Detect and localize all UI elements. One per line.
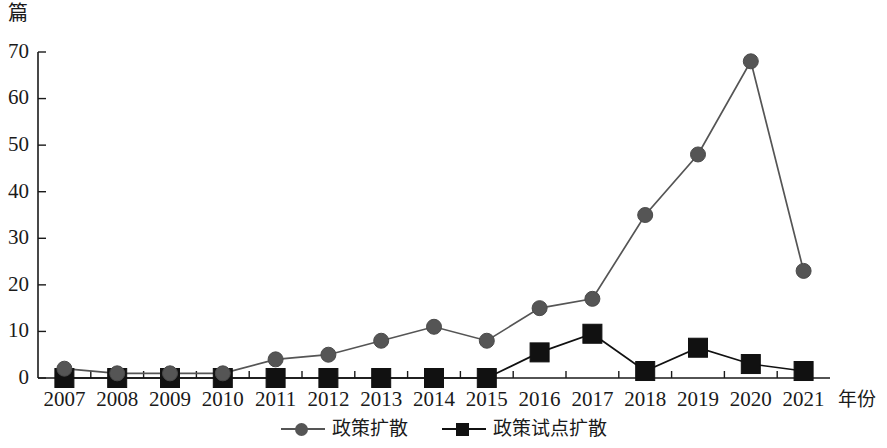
x-axis-tick-label: 2015	[466, 387, 508, 411]
circle-marker-icon	[281, 421, 325, 437]
x-axis-tick-label: 2012	[307, 387, 349, 411]
legend-label-policy-diffusion: 政策扩散	[332, 418, 408, 439]
square-marker-icon	[442, 421, 486, 437]
data-point-marker	[321, 347, 336, 362]
x-axis-tick-label: 2016	[519, 387, 561, 411]
data-point-marker	[110, 366, 125, 381]
x-axis-tick-label: 2021	[783, 387, 825, 411]
y-axis-tick-label: 20	[8, 272, 29, 296]
y-axis-tick-group: 010203040506070	[8, 39, 46, 389]
data-point-marker	[585, 291, 600, 306]
data-point-marker	[794, 362, 813, 381]
series-markers-policy-diffusion	[57, 54, 811, 381]
legend-label-policy-pilot-diffusion: 政策试点扩散	[493, 418, 607, 439]
y-axis-tick-label: 50	[8, 132, 29, 156]
x-axis-tick-label: 2019	[677, 387, 719, 411]
data-point-marker	[477, 369, 496, 388]
x-axis-tick-label: 2010	[202, 387, 244, 411]
data-point-marker	[425, 369, 444, 388]
data-point-marker	[532, 301, 547, 316]
x-axis-label-group: 2007200820092010201120122013201420152016…	[43, 387, 824, 411]
x-axis-tick-label: 2017	[571, 387, 613, 411]
x-axis-tick-label: 2007	[43, 387, 85, 411]
y-axis-tick-label: 60	[8, 85, 29, 109]
data-point-marker	[427, 319, 442, 334]
y-axis-tick-label: 30	[8, 225, 29, 249]
data-point-marker	[638, 208, 653, 223]
data-point-marker	[372, 369, 391, 388]
x-axis-tick-label: 2011	[255, 387, 296, 411]
legend-item-policy-diffusion: 政策扩散	[281, 418, 408, 439]
data-point-marker	[689, 338, 708, 357]
data-point-marker	[319, 369, 338, 388]
y-axis-tick-label: 40	[8, 179, 29, 203]
data-point-marker	[163, 366, 178, 381]
data-point-marker	[796, 263, 811, 278]
x-axis-tick-label: 2020	[730, 387, 772, 411]
y-axis-tick-label: 0	[19, 365, 30, 389]
data-point-marker	[743, 54, 758, 69]
data-point-marker	[266, 369, 285, 388]
y-axis-tick-label: 10	[8, 318, 29, 342]
line-chart-figure: 篇 年份 010203040506070 2007200820092010201…	[0, 0, 887, 448]
data-point-marker	[215, 366, 230, 381]
x-axis-tick-label: 2014	[413, 387, 456, 411]
x-axis-tick-label: 2018	[624, 387, 666, 411]
data-point-marker	[479, 333, 494, 348]
data-point-marker	[636, 362, 655, 381]
data-point-marker	[530, 343, 549, 362]
data-point-marker	[741, 355, 760, 374]
plot-area: 010203040506070 200720082009201020112012…	[0, 0, 887, 418]
data-point-marker	[691, 147, 706, 162]
data-point-marker	[57, 361, 72, 376]
x-axis-tick-label: 2008	[96, 387, 138, 411]
y-axis-tick-label: 70	[8, 39, 29, 63]
legend-item-policy-pilot-diffusion: 政策试点扩散	[442, 418, 607, 439]
data-point-marker	[583, 324, 602, 343]
data-point-marker	[374, 333, 389, 348]
x-axis-tick-label: 2009	[149, 387, 191, 411]
data-point-marker	[268, 352, 283, 367]
x-axis-tick-label: 2013	[360, 387, 402, 411]
chart-legend: 政策扩散 政策试点扩散	[0, 418, 887, 439]
